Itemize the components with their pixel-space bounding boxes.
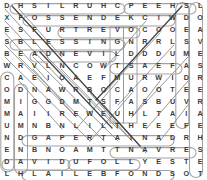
grid-cell[interactable]: V (110, 24, 124, 36)
grid-cell[interactable]: A (193, 24, 207, 36)
grid-cell[interactable]: E (69, 132, 83, 144)
grid-cell[interactable]: I (97, 48, 111, 60)
grid-cell[interactable]: F (179, 120, 193, 132)
grid-cell[interactable]: N (83, 12, 97, 24)
grid-cell[interactable]: G (41, 96, 55, 108)
grid-cell[interactable]: L (0, 168, 14, 180)
grid-cell[interactable]: E (41, 36, 55, 48)
grid-cell[interactable]: O (0, 84, 14, 96)
grid-cell[interactable]: O (152, 24, 166, 36)
grid-cell[interactable]: A (166, 108, 180, 120)
grid-cell[interactable]: C (69, 60, 83, 72)
grid-cell[interactable]: V (179, 96, 193, 108)
grid-cell[interactable]: S (179, 0, 193, 12)
grid-cell[interactable]: Y (138, 156, 152, 168)
grid-cell[interactable]: I (14, 96, 28, 108)
grid-cell[interactable]: F (166, 60, 180, 72)
grid-cell[interactable]: R (152, 36, 166, 48)
grid-cell[interactable]: D (179, 12, 193, 24)
grid-cell[interactable]: I (41, 156, 55, 168)
grid-cell[interactable]: N (138, 132, 152, 144)
grid-cell[interactable]: T (166, 84, 180, 96)
grid-cell[interactable]: T (179, 156, 193, 168)
grid-cell[interactable]: R (55, 108, 69, 120)
grid-cell[interactable]: T (69, 24, 83, 36)
grid-cell[interactable]: X (0, 12, 14, 24)
grid-cell[interactable]: O (124, 24, 138, 36)
grid-cell[interactable]: I (28, 108, 42, 120)
grid-cell[interactable]: S (179, 36, 193, 48)
grid-cell[interactable]: H (124, 108, 138, 120)
grid-cell[interactable]: N (55, 48, 69, 60)
grid-cell[interactable]: M (69, 96, 83, 108)
grid-cell[interactable]: D (97, 12, 111, 24)
grid-cell[interactable]: C (0, 72, 14, 84)
grid-cell[interactable]: N (97, 36, 111, 48)
grid-cell[interactable]: G (28, 132, 42, 144)
grid-cell[interactable]: N (138, 168, 152, 180)
grid-cell[interactable]: W (55, 84, 69, 96)
grid-cell[interactable]: S (0, 36, 14, 48)
grid-cell[interactable]: U (124, 72, 138, 84)
grid-cell[interactable]: U (166, 48, 180, 60)
grid-cell[interactable]: L (138, 108, 152, 120)
grid-cell[interactable]: A (28, 48, 42, 60)
grid-cell[interactable]: R (55, 24, 69, 36)
grid-cell[interactable]: L (193, 0, 207, 12)
grid-cell[interactable]: I (83, 120, 97, 132)
grid-cell[interactable]: T (83, 96, 97, 108)
grid-cell[interactable]: O (193, 12, 207, 24)
grid-cell[interactable]: U (41, 24, 55, 36)
grid-cell[interactable]: T (110, 60, 124, 72)
grid-cell[interactable]: A (138, 60, 152, 72)
grid-cell[interactable]: D (14, 132, 28, 144)
grid-cell[interactable]: D (124, 48, 138, 60)
grid-cell[interactable]: I (166, 72, 180, 84)
grid-cell[interactable]: D (55, 156, 69, 168)
grid-cell[interactable]: N (124, 36, 138, 48)
grid-cell[interactable]: D (138, 48, 152, 60)
grid-cell[interactable]: A (179, 60, 193, 72)
grid-cell[interactable]: R (69, 0, 83, 12)
letter-grid[interactable]: DHSILRUHCPEEHSLXFOSSENDEKCIWDOESFURTREVO… (0, 0, 207, 180)
grid-cell[interactable]: O (166, 24, 180, 36)
grid-cell[interactable]: E (0, 144, 14, 156)
grid-cell[interactable]: S (69, 36, 83, 48)
grid-cell[interactable]: N (0, 132, 14, 144)
grid-cell[interactable]: N (124, 144, 138, 156)
grid-cell[interactable]: G (28, 96, 42, 108)
grid-cell[interactable]: G (110, 36, 124, 48)
grid-cell[interactable]: R (193, 96, 207, 108)
grid-cell[interactable]: W (97, 60, 111, 72)
grid-cell[interactable]: R (193, 72, 207, 84)
grid-cell[interactable]: S (166, 156, 180, 168)
grid-cell[interactable]: F (110, 168, 124, 180)
grid-cell[interactable]: D (41, 48, 55, 60)
grid-cell[interactable]: E (83, 72, 97, 84)
grid-cell[interactable]: L (110, 48, 124, 60)
grid-cell[interactable]: H (14, 168, 28, 180)
grid-cell[interactable]: O (83, 60, 97, 72)
grid-cell[interactable]: R (138, 36, 152, 48)
grid-cell[interactable]: S (193, 60, 207, 72)
grid-cell[interactable]: E (193, 120, 207, 132)
grid-cell[interactable]: R (166, 144, 180, 156)
grid-cell[interactable]: F (97, 72, 111, 84)
grid-cell[interactable]: N (55, 60, 69, 72)
grid-cell[interactable]: I (55, 168, 69, 180)
grid-cell[interactable]: S (124, 60, 138, 72)
grid-cell[interactable]: K (124, 12, 138, 24)
grid-cell[interactable]: C (110, 0, 124, 12)
grid-cell[interactable]: E (0, 24, 14, 36)
grid-cell[interactable]: H (97, 0, 111, 12)
grid-cell[interactable]: B (97, 168, 111, 180)
grid-cell[interactable]: U (69, 156, 83, 168)
grid-cell[interactable]: E (97, 108, 111, 120)
grid-cell[interactable]: A (41, 132, 55, 144)
grid-cell[interactable]: S (28, 0, 42, 12)
grid-cell[interactable]: H (193, 132, 207, 144)
grid-cell[interactable]: L (69, 168, 83, 180)
grid-cell[interactable]: D (0, 156, 14, 168)
grid-cell[interactable]: T (97, 144, 111, 156)
grid-cell[interactable]: M (179, 48, 193, 60)
